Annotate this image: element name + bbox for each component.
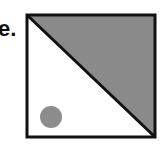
square-diagram [0, 0, 164, 147]
gray-dot [40, 106, 62, 128]
